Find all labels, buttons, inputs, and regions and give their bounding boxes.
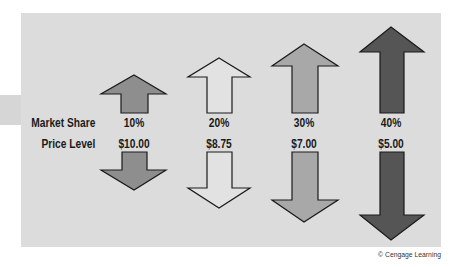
price-level-value: $10.00: [109, 137, 160, 151]
arrows-layer: [0, 0, 467, 267]
market-share-up-arrow-icon: [272, 44, 338, 113]
price-level-down-arrow-icon: [360, 152, 424, 240]
market-share-value: 40%: [366, 116, 417, 130]
price-level-down-arrow-icon: [272, 152, 338, 222]
market-share-value: 30%: [279, 116, 330, 130]
market-share-value: 10%: [109, 116, 160, 130]
price-level-label: Price Level: [41, 137, 95, 151]
market-share-value: 20%: [194, 116, 245, 130]
price-level-value: $7.00: [279, 137, 330, 151]
market-share-up-arrow-icon: [188, 58, 250, 113]
market-share-up-arrow-icon: [101, 75, 166, 113]
price-level-down-arrow-icon: [188, 152, 250, 208]
price-level-down-arrow-icon: [101, 152, 166, 190]
price-level-value: $5.00: [366, 137, 417, 151]
price-level-value: $8.75: [194, 137, 245, 151]
market-share-up-arrow-icon: [360, 27, 424, 113]
copyright-notice: © Cengage Learning: [378, 250, 441, 259]
market-share-label: Market Share: [31, 116, 95, 130]
